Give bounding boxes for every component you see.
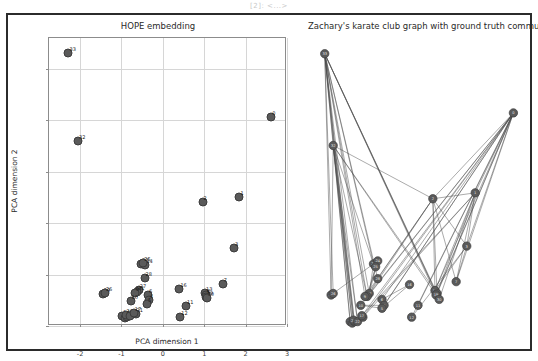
- x-tick-mark: [287, 324, 288, 327]
- graph-node-label: 7: [455, 280, 457, 284]
- karate-club-network: 3332012371381930161112232425282731964510…: [312, 33, 524, 329]
- scatter-point-label: 0: [272, 110, 275, 116]
- figure-frame: HOPE embedding PCA dimension 2 PCA dimen…: [6, 13, 532, 351]
- gridline-vertical: [163, 38, 164, 324]
- scatter-point-label: 7: [224, 277, 227, 283]
- graph-node-label: 30: [437, 298, 442, 302]
- scatter-point-label: 33: [69, 46, 75, 52]
- karate-club-graph-title: Zachary's karate club graph with ground …: [308, 21, 530, 31]
- gridline-horizontal: [49, 69, 285, 70]
- gridline-horizontal: [49, 172, 285, 173]
- gridline-horizontal: [49, 120, 285, 121]
- graph-edge: [331, 145, 333, 294]
- scatter-point-label: 26: [106, 286, 112, 292]
- graph-node-label: 10: [358, 304, 363, 308]
- scatter-point-label: 30: [208, 291, 214, 297]
- y-tick-mark: [46, 120, 49, 121]
- scatter-point-label: 11: [187, 299, 193, 305]
- hope-embedding-panel: HOPE embedding PCA dimension 2 PCA dimen…: [8, 15, 308, 349]
- graph-node-label: 17: [360, 314, 365, 318]
- graph-node-label: 25: [373, 265, 378, 269]
- scatter-point-label: 31: [138, 285, 144, 291]
- x-tick-label: -2: [68, 350, 92, 358]
- notebook-output-label: [2]: <...>: [0, 0, 538, 13]
- graph-node-label: 5: [381, 307, 383, 311]
- x-tick-mark: [80, 324, 81, 327]
- gridline-vertical: [80, 38, 81, 324]
- scatter-point-label: 28: [146, 271, 152, 277]
- scatter-point-label: 17: [135, 306, 141, 312]
- graph-edge: [333, 145, 367, 296]
- scatter-point-label: 16: [180, 282, 186, 288]
- gridline-vertical: [204, 38, 205, 324]
- x-tick-label: 1: [192, 350, 216, 358]
- gridline-horizontal: [49, 223, 285, 224]
- scatter-point-label: 3: [235, 241, 238, 247]
- graph-node-label: 22: [355, 320, 360, 324]
- scatter-plot-area: -101234-2-101233332012371381930161112232…: [48, 37, 286, 325]
- graph-node-label: 11: [416, 304, 421, 308]
- gridline-vertical: [246, 38, 247, 324]
- graph-edge: [456, 246, 467, 282]
- graph-edge: [382, 113, 513, 308]
- scatter-point-label: 10: [132, 294, 138, 300]
- x-tick-mark: [163, 324, 164, 327]
- y-tick-mark: [46, 172, 49, 173]
- karate-club-graph-panel: Zachary's karate club graph with ground …: [308, 15, 530, 349]
- scatter-point-label: 1: [240, 190, 243, 196]
- graph-node-label: 2: [432, 197, 434, 201]
- graph-edge: [367, 113, 513, 297]
- x-tick-mark: [246, 324, 247, 327]
- graph-edge: [456, 193, 475, 282]
- graph-node-label: 32: [331, 144, 336, 148]
- gridline-vertical: [287, 38, 288, 324]
- x-tick-mark: [204, 324, 205, 327]
- graph-edge: [435, 246, 467, 290]
- x-tick-mark: [121, 324, 122, 327]
- graph-node-label: 3: [466, 245, 468, 249]
- hope-embedding-title: HOPE embedding: [8, 21, 308, 31]
- graph-node-label: 33: [322, 52, 327, 56]
- y-tick-mark: [46, 275, 49, 276]
- y-tick-mark: [46, 326, 49, 327]
- graph-node-label: 1: [474, 191, 476, 195]
- graph-edge: [433, 199, 467, 246]
- graph-edge: [435, 193, 475, 291]
- graph-edge: [436, 113, 513, 295]
- graph-edge: [382, 113, 513, 299]
- y-axis-label: PCA dimension 2: [10, 149, 19, 212]
- gridline-horizontal: [49, 326, 285, 327]
- y-tick-mark: [46, 223, 49, 224]
- scatter-point-label: 32: [79, 134, 85, 140]
- y-tick-mark: [46, 69, 49, 70]
- graph-node-label: 26: [331, 292, 336, 296]
- gridline-horizontal: [49, 275, 285, 276]
- graph-node-label: 28: [375, 277, 380, 281]
- graph-edge: [433, 113, 514, 199]
- scatter-point-label: 2: [204, 195, 207, 201]
- x-axis-label: PCA dimension 1: [135, 337, 198, 346]
- graph-edge: [382, 285, 410, 300]
- scatter-point-label: 12: [181, 310, 187, 316]
- gridline-vertical: [121, 38, 122, 324]
- graph-node-label: 16: [407, 283, 412, 287]
- x-tick-label: 0: [151, 350, 175, 358]
- x-tick-label: 2: [234, 350, 258, 358]
- graph-edge: [412, 113, 514, 317]
- scatter-point-label: 9: [136, 286, 139, 292]
- x-tick-label: -1: [109, 350, 133, 358]
- x-tick-label: 3: [275, 350, 299, 358]
- graph-edge: [456, 113, 513, 282]
- graph-edges: [325, 54, 514, 323]
- scatter-point-label: 25: [144, 256, 150, 262]
- graph-node-label: 12: [409, 316, 414, 320]
- scatter-point-label: 5: [148, 297, 151, 303]
